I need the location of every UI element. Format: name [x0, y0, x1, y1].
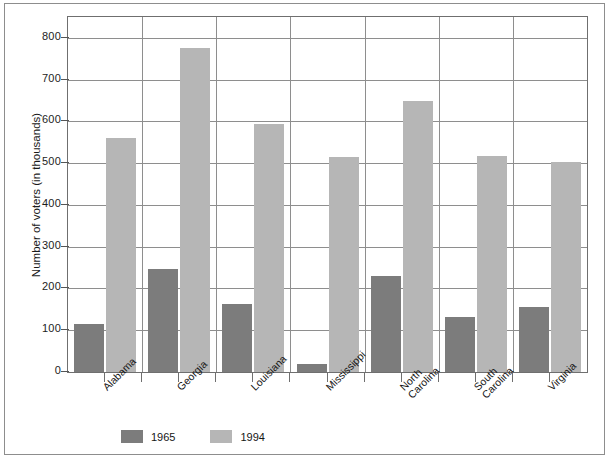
bar-alabama-1965: [74, 324, 104, 372]
y-tick-mark: [61, 162, 69, 163]
gridline-vertical: [142, 17, 143, 372]
figure-border: 0100200300400500600700800 Number of vote…: [4, 3, 605, 455]
gridline-vertical: [290, 17, 291, 372]
gridline-vertical: [365, 17, 366, 372]
x-tick-mark: [215, 373, 216, 382]
bar-south-carolina-1965: [445, 317, 475, 372]
x-tick-mark: [438, 373, 439, 382]
bar-mississippi-1965: [297, 364, 327, 372]
legend-swatch-1965: [121, 430, 143, 443]
plot-area: [67, 16, 588, 373]
y-tick-label: 0: [21, 364, 61, 376]
gridline-vertical: [216, 17, 217, 372]
gridline-horizontal: [68, 247, 587, 248]
gridline-vertical: [513, 17, 514, 372]
chart-legend: 19651994: [121, 430, 291, 443]
gridline-horizontal: [68, 163, 587, 164]
legend-label-1965: 1965: [151, 431, 175, 443]
y-tick-mark: [61, 79, 69, 80]
y-tick-mark: [61, 371, 69, 372]
legend-label-1994: 1994: [240, 431, 264, 443]
gridline-vertical: [439, 17, 440, 372]
y-tick-mark: [61, 287, 69, 288]
bar-georgia-1994: [180, 48, 210, 372]
legend-swatch-1994: [210, 430, 232, 443]
y-tick-mark: [61, 120, 69, 121]
bar-virginia-1965: [519, 307, 549, 372]
x-tick-mark: [512, 373, 513, 382]
bar-mississippi-1994: [329, 157, 359, 372]
y-tick-mark: [61, 329, 69, 330]
gridline-horizontal: [68, 80, 587, 81]
bar-louisiana-1965: [222, 304, 252, 372]
bar-alabama-1994: [106, 138, 136, 372]
x-tick-mark: [289, 373, 290, 382]
gridline-horizontal: [68, 330, 587, 331]
chart-figure: 0100200300400500600700800 Number of vote…: [0, 0, 611, 463]
bar-georgia-1965: [148, 269, 178, 372]
gridline-horizontal: [68, 205, 587, 206]
x-tick-mark: [364, 373, 365, 382]
legend-item-1994: 1994: [210, 430, 264, 443]
gridline-horizontal: [68, 288, 587, 289]
y-tick-mark: [61, 204, 69, 205]
bar-louisiana-1994: [254, 124, 284, 372]
y-tick-label: 100: [21, 322, 61, 334]
bar-virginia-1994: [551, 162, 581, 372]
gridline-horizontal: [68, 38, 587, 39]
y-tick-mark: [61, 246, 69, 247]
y-axis-title: Number of voters (in thousands): [30, 80, 42, 310]
gridline-horizontal: [68, 121, 587, 122]
bar-north-carolina-1994: [403, 101, 433, 372]
y-tick-mark: [61, 37, 69, 38]
y-tick-label: 800: [21, 30, 61, 42]
legend-item-1965: 1965: [121, 430, 175, 443]
bar-north-carolina-1965: [371, 276, 401, 372]
bar-south-carolina-1994: [477, 156, 507, 372]
x-tick-mark: [141, 373, 142, 382]
